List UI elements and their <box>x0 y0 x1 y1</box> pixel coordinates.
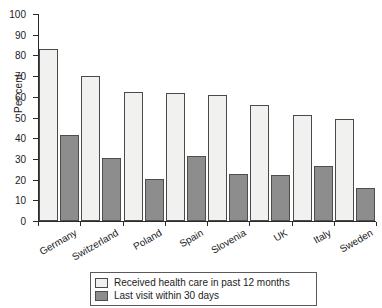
y-tick-label: 10 <box>15 195 26 206</box>
x-tick <box>38 222 39 226</box>
legend: Received health care in past 12 months L… <box>90 272 317 306</box>
legend-label: Received health care in past 12 months <box>114 277 290 288</box>
bar <box>314 166 333 221</box>
y-tick: 70 <box>33 76 38 77</box>
bar <box>250 105 269 221</box>
x-tick <box>80 222 81 226</box>
x-axis-label: Spain <box>177 227 205 249</box>
bar <box>81 76 100 221</box>
bar <box>39 49 58 221</box>
y-tick: 50 <box>33 118 38 119</box>
bar <box>187 156 206 221</box>
x-axis-label: Sweden <box>338 227 375 255</box>
x-tick <box>165 222 166 226</box>
y-tick-label: 20 <box>15 174 26 185</box>
bar <box>229 174 248 221</box>
y-tick: 100 <box>33 14 38 15</box>
x-tick <box>207 222 208 226</box>
plot-area: 0102030405060708090100 <box>38 14 376 222</box>
bar <box>335 119 354 221</box>
x-tick <box>123 222 124 226</box>
legend-item: Received health care in past 12 months <box>95 276 311 289</box>
bar <box>208 95 227 221</box>
x-axis-label: Italy <box>311 227 332 246</box>
bar <box>124 92 143 221</box>
legend-swatch-dark <box>95 291 108 301</box>
bar <box>166 93 185 221</box>
y-tick: 60 <box>33 97 38 98</box>
bar <box>145 179 164 221</box>
x-tick <box>249 222 250 226</box>
y-tick: 40 <box>33 138 38 139</box>
y-tick-label: 30 <box>15 153 26 164</box>
y-tick: 20 <box>33 180 38 181</box>
legend-item: Last visit within 30 days <box>95 289 311 302</box>
bar-chart: Per cent 0102030405060708090100 GermanyS… <box>0 0 382 308</box>
bar <box>102 158 121 221</box>
y-tick-label: 50 <box>15 112 26 123</box>
y-tick: 80 <box>33 55 38 56</box>
y-tick-label: 70 <box>15 71 26 82</box>
x-tick <box>334 222 335 226</box>
y-tick-label: 80 <box>15 50 26 61</box>
bar <box>271 175 290 221</box>
x-axis-label: Switzerland <box>70 227 120 262</box>
y-tick: 90 <box>33 35 38 36</box>
legend-label: Last visit within 30 days <box>114 290 219 301</box>
bar <box>293 115 312 221</box>
y-tick-label: 0 <box>20 216 26 227</box>
y-tick: 10 <box>33 200 38 201</box>
bar <box>60 135 79 221</box>
y-tick-label: 100 <box>9 9 26 20</box>
y-tick: 30 <box>33 159 38 160</box>
y-tick-label: 90 <box>15 29 26 40</box>
y-tick-label: 60 <box>15 91 26 102</box>
x-axis-label: Poland <box>131 227 163 252</box>
x-tick <box>376 222 377 226</box>
legend-swatch-light <box>95 278 108 288</box>
x-axis-label: UK <box>272 227 290 243</box>
x-axis-label: Slovenia <box>209 227 248 256</box>
x-tick <box>292 222 293 226</box>
bar <box>356 188 375 221</box>
y-tick-label: 40 <box>15 133 26 144</box>
